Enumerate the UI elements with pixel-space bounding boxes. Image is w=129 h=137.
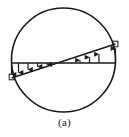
stress-arrows-up-group <box>80 54 99 63</box>
figure-container: (a) <box>0 0 129 137</box>
cross-section-circle <box>12 8 116 112</box>
linear-distribution-line <box>12 44 116 78</box>
figure-caption: (a) <box>0 116 129 129</box>
